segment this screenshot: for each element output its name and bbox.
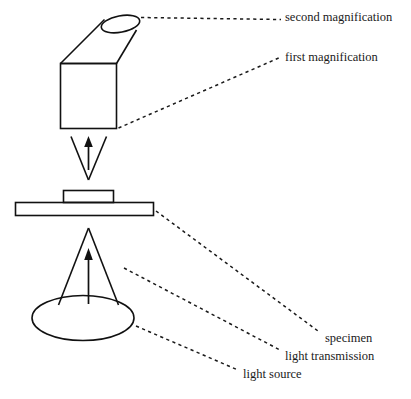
upper-beam-arrow <box>84 136 93 170</box>
light-source-ellipse <box>32 296 134 341</box>
tube-left-edge <box>61 20 105 64</box>
upper-arrow-head <box>84 136 93 147</box>
label-first-magnification: first magnification <box>285 51 378 64</box>
eyepiece-tube <box>61 12 142 63</box>
tube-right-edge <box>117 30 137 64</box>
specimen-block <box>64 191 114 203</box>
leader-light-source <box>136 326 238 370</box>
label-light-source: light source <box>243 368 302 381</box>
leader-second-magnification <box>141 18 281 20</box>
label-specimen: specimen <box>325 332 372 345</box>
label-light-transmission: light transmission <box>285 350 374 363</box>
stage-assembly <box>16 191 154 216</box>
leader-first-magnification <box>119 57 282 128</box>
leader-light-transmission <box>124 268 280 350</box>
diagram-canvas: second magnification first magnification… <box>0 0 411 399</box>
objective-box <box>61 64 117 129</box>
lower-arrow-head <box>84 248 93 260</box>
lower-cone-right <box>89 228 119 305</box>
leader-specimen <box>156 211 318 331</box>
lower-cone-left <box>59 228 89 305</box>
stage-bar <box>16 203 154 216</box>
label-second-magnification: second magnification <box>285 11 392 24</box>
objective-body <box>61 64 117 129</box>
